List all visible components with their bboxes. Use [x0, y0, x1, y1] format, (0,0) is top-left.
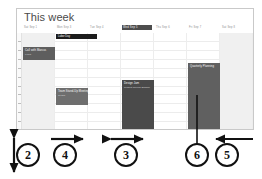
callout-number: 5: [224, 149, 230, 161]
day-header-5[interactable]: Fri Sep 7: [187, 25, 220, 33]
day-header-0[interactable]: Sat Sep 1: [22, 25, 55, 33]
day-column[interactable]: [55, 33, 88, 129]
calendar-event[interactable]: Quarterly Planning: [188, 63, 220, 130]
calendar-event-subtitle: 9:00a: [25, 53, 31, 56]
day-header-label: Wed Sep 5: [123, 26, 138, 30]
day-header-row: Sat Sep 1Mon Sep 3Tue Sep 4Wed Sep 5Thu …: [17, 25, 253, 33]
time-tick: [18, 121, 21, 122]
callout-4[interactable]: 4: [53, 143, 77, 167]
day-header-2[interactable]: Tue Sep 4: [88, 25, 121, 33]
callout-number: 2: [25, 149, 31, 161]
day-column[interactable]: [220, 33, 253, 129]
calendar-event-subtitle: 11:30a: [58, 94, 65, 97]
calendar-event-subtitle: Product Review Session: [124, 86, 150, 89]
callout-number: 6: [194, 149, 200, 161]
callout-number: 3: [123, 149, 129, 161]
calendar-event-title: Design Jam: [124, 82, 139, 85]
calendar-grid-body: Labor DayCall with Marcus9:00aTeam Stand…: [17, 33, 253, 129]
day-header-6[interactable]: Sat Sep 8: [220, 25, 253, 33]
time-tick: [18, 86, 21, 87]
day-header-label: Sat Sep 8: [222, 26, 235, 30]
day-header-4[interactable]: Thu Sep 6: [154, 25, 187, 33]
time-tick: [18, 50, 21, 51]
time-tick: [18, 59, 21, 60]
calendar-event-title: Call with Marcus: [25, 49, 46, 52]
day-header-label: Mon Sep 3: [57, 26, 71, 30]
time-tick: [18, 68, 21, 69]
day-header-label: Thu Sep 6: [156, 26, 170, 30]
time-tick: [18, 41, 21, 42]
calendar-event[interactable]: Design JamProduct Review Session: [122, 80, 154, 130]
screenshot-root: This week Sat Sep 1Mon Sep 3Tue Sep 4Wed…: [0, 0, 262, 179]
time-tick: [18, 77, 21, 78]
day-header-label: Sat Sep 1: [24, 26, 37, 30]
day-header-label: Tue Sep 4: [90, 26, 104, 30]
day-header-label: Fri Sep 7: [189, 26, 201, 30]
time-tick: [18, 103, 21, 104]
time-tick: [18, 112, 21, 113]
day-header-3[interactable]: Wed Sep 5: [121, 25, 154, 33]
calendar-panel: This week Sat Sep 1Mon Sep 3Tue Sep 4Wed…: [16, 8, 254, 130]
page-title: This week: [24, 11, 74, 24]
calendar-event[interactable]: Team Stand-Up Meeting11:30a: [56, 88, 88, 105]
callout-6[interactable]: 6: [185, 143, 209, 167]
day-column[interactable]: [154, 33, 187, 129]
time-tick: [18, 94, 21, 95]
day-header-1[interactable]: Mon Sep 3: [55, 25, 88, 33]
calendar-event[interactable]: Call with Marcus9:00a: [23, 47, 55, 60]
callout-3[interactable]: 3: [114, 143, 138, 167]
callout-number: 4: [62, 149, 68, 161]
callout-5[interactable]: 5: [215, 143, 239, 167]
allday-event-label: Labor Day: [58, 35, 70, 39]
calendar-event-title: Quarterly Planning: [190, 65, 214, 68]
allday-event[interactable]: Labor Day: [56, 34, 97, 39]
callout-2[interactable]: 2: [16, 143, 40, 167]
calendar-event-title: Team Stand-Up Meeting: [58, 90, 88, 93]
day-column[interactable]: [88, 33, 121, 129]
